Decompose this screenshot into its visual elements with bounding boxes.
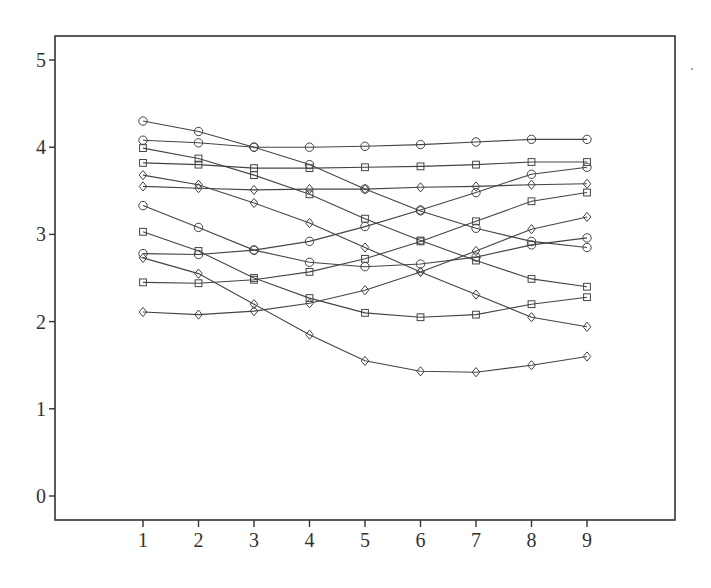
series-circle-line [139,201,591,270]
y-tick-label: 5 [36,49,46,71]
x-tick-label: 3 [249,529,259,551]
series-circle-line [139,163,591,259]
y-tick-label: 4 [36,136,46,158]
x-axis: 123456789 [138,520,592,551]
series-path [143,206,587,267]
series-path [143,162,587,168]
chart-canvas: 012345 123456789 [0,0,711,588]
series-diamond-line [139,179,591,194]
x-tick-label: 8 [527,529,537,551]
x-tick-label: 4 [305,529,315,551]
x-tick-label: 7 [471,529,481,551]
x-tick-label: 6 [416,529,426,551]
series-path [143,139,587,147]
series-path [143,148,587,287]
series-layer [139,117,591,377]
y-axis: 012345 [36,49,55,507]
series-path [143,193,587,284]
stray-dot [691,68,693,70]
x-tick-label: 5 [360,529,370,551]
series-diamond-line [139,253,591,376]
y-tick-label: 3 [36,223,46,245]
y-tick-label: 2 [36,311,46,333]
y-tick-label: 0 [36,485,46,507]
x-tick-label: 1 [138,529,148,551]
x-tick-label: 9 [582,529,592,551]
y-tick-label: 1 [36,398,46,420]
series-square-line [140,189,591,286]
series-circle-line [139,135,591,151]
series-path [143,167,587,254]
series-square-line [140,145,591,290]
series-path [143,175,587,327]
series-diamond-line [139,212,591,319]
square-marker-icon [140,228,147,235]
x-tick-label: 2 [194,529,204,551]
plot-frame [55,36,675,520]
series-diamond-line [139,171,591,332]
diamond-marker-icon [583,212,591,221]
line-chart: 012345 123456789 [0,0,711,588]
series-path [143,232,587,317]
